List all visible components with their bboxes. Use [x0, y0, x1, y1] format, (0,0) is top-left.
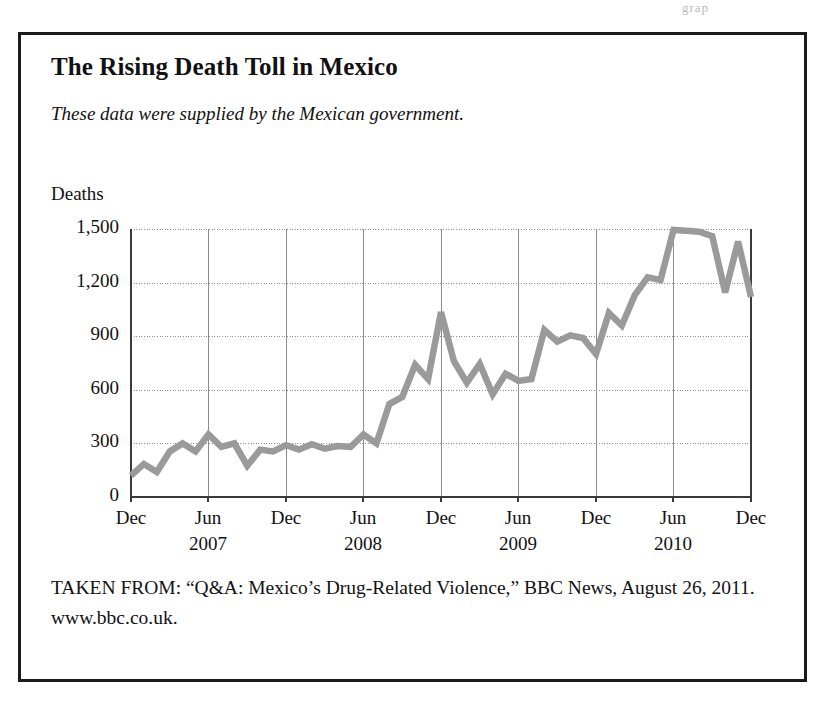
source-attribution: TAKEN FROM: “Q&A: Mexico’s Drug-Related …	[51, 573, 761, 633]
x-axis-tick-label: Jun	[478, 507, 558, 529]
y-axis-tick-label: 0	[39, 484, 119, 506]
x-axis-tick-label: Dec	[556, 507, 636, 529]
y-axis-tick-label: 600	[39, 377, 119, 399]
line-chart-svg	[21, 35, 810, 575]
x-axis-tick-label: Jun	[168, 507, 248, 529]
x-axis-tick-label: Dec	[246, 507, 326, 529]
x-axis-tick-label: Jun	[323, 507, 403, 529]
figure-box: The Rising Death Toll in Mexico These da…	[18, 32, 807, 682]
x-axis-year-label: 2008	[323, 533, 403, 555]
y-axis-tick-label: 900	[39, 323, 119, 345]
x-axis-year-label: 2007	[168, 533, 248, 555]
y-axis-tick-label: 1,200	[39, 270, 119, 292]
x-axis-tick-label: Jun	[633, 507, 713, 529]
y-axis-tick-label: 1,500	[39, 216, 119, 238]
x-axis-tick-label: Dec	[401, 507, 481, 529]
x-axis-tick-label: Dec	[91, 507, 171, 529]
scan-artifact-text: grap	[682, 0, 709, 16]
figure-page: grap The Rising Death Toll in Mexico The…	[0, 0, 827, 702]
y-axis-tick-label: 300	[39, 430, 119, 452]
x-axis-year-label: 2010	[633, 533, 713, 555]
x-axis-tick-label: Dec	[711, 507, 791, 529]
x-axis-year-label: 2009	[478, 533, 558, 555]
